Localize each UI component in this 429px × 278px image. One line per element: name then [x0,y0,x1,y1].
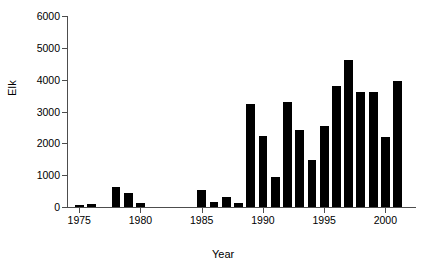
y-axis-tick-mark [62,48,68,49]
bar-2001 [393,81,402,207]
x-axis-tick-mark [324,208,325,213]
bar-1990 [259,136,268,207]
x-axis-line [67,207,416,208]
y-axis-tick-label: 1000 [22,170,60,180]
x-axis-tick-label: 1985 [182,214,222,226]
x-axis-tick-mark [79,208,80,213]
y-axis-tick-label: 3000 [22,107,60,117]
bar-1978 [112,187,121,207]
bar-1997 [344,60,353,207]
bar-1995 [320,126,329,207]
y-axis-tick-label: 0 [22,202,60,212]
bar-1989 [246,104,255,207]
x-axis-tick-label: 1980 [120,214,160,226]
bar-1987 [222,197,231,207]
x-axis-tick-label: 2000 [365,214,405,226]
x-axis-tick-label: 1995 [304,214,344,226]
y-axis-tick-label: 4000 [22,75,60,85]
bar-1999 [369,92,378,207]
y-axis-tick-mark [62,80,68,81]
y-axis-tick-label: 5000 [22,43,60,53]
x-axis-title: Year [212,248,234,260]
x-axis-tick-mark [385,208,386,213]
plot-area [0,0,429,278]
y-axis-tick-label: 2000 [22,138,60,148]
bar-1993 [295,130,304,207]
bar-1996 [332,86,341,207]
bar-1985 [197,190,206,207]
bar-1979 [124,193,133,207]
x-axis-tick-mark [263,208,264,213]
y-axis-tick-mark [62,16,68,17]
bar-2000 [381,137,390,207]
x-axis-tick-label: 1975 [59,214,99,226]
x-axis-tick-mark [140,208,141,213]
y-axis-tick-label: 6000 [22,11,60,21]
bar-1994 [308,160,317,207]
y-axis-tick-mark [62,112,68,113]
bar-1992 [283,102,292,207]
y-axis-tick-mark [62,207,68,208]
x-axis-tick-mark [202,208,203,213]
y-axis-tick-mark [62,175,68,176]
y-axis-tick-mark [62,143,68,144]
bar-1991 [271,177,280,207]
x-axis-tick-label: 1990 [243,214,283,226]
bar-1998 [356,92,365,207]
elk-population-bar-chart: Elk Year 0100020003000400050006000197519… [0,0,429,278]
